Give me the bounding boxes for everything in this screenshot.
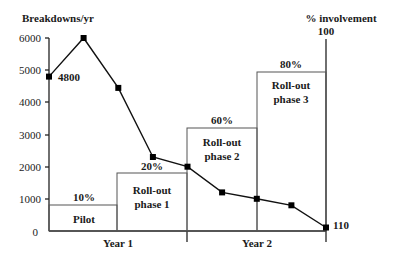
phase3-label-2: phase 3 — [273, 93, 309, 105]
data-point-marker — [150, 154, 156, 160]
y-tick-labels: 6000 5000 4000 3000 2000 1000 0 — [19, 32, 42, 238]
y-tick-4000: 4000 — [19, 96, 42, 108]
point-label-start: 4800 — [58, 71, 81, 83]
phase2-percent: 60% — [211, 114, 233, 126]
phase-labels: 10% Pilot 20% Roll-out phase 1 60% Roll-… — [73, 58, 311, 225]
phase2-label-1: Roll-out — [203, 136, 242, 148]
phase3-label-1: Roll-out — [272, 79, 311, 91]
y2-axis-title: % involvement — [305, 12, 377, 24]
data-point-marker — [115, 85, 121, 91]
y-axis-title: Breakdowns/yr — [22, 12, 94, 24]
x-label-year1: Year 1 — [103, 237, 133, 249]
data-point-marker — [323, 225, 329, 231]
y-tick-6000: 6000 — [19, 32, 42, 44]
phase2-label-2: phase 2 — [204, 150, 240, 162]
point-label-end: 110 — [333, 219, 349, 231]
data-point-marker — [288, 202, 294, 208]
y-tick-5000: 5000 — [19, 64, 42, 76]
y-axis — [45, 38, 49, 231]
data-point-marker — [185, 164, 191, 170]
phase1-label-2: phase 1 — [134, 198, 169, 210]
y-tick-3000: 3000 — [19, 129, 42, 141]
phase3-percent: 80% — [280, 58, 302, 70]
phase1-percent: 20% — [141, 160, 163, 172]
y-tick-2000: 2000 — [19, 161, 42, 173]
data-point-marker — [81, 35, 87, 41]
pilot-percent: 10% — [73, 191, 95, 203]
y2-tick-100: 100 — [318, 25, 335, 37]
pilot-label: Pilot — [73, 213, 95, 225]
data-point-marker — [46, 74, 52, 80]
x-axis — [49, 231, 326, 242]
x-label-year2: Year 2 — [242, 237, 273, 249]
data-point-marker — [254, 196, 260, 202]
y-tick-1000: 1000 — [19, 193, 42, 205]
x-labels: Year 1 Year 2 — [103, 237, 273, 249]
y-tick-0: 0 — [33, 226, 39, 238]
phase1-label-1: Roll-out — [133, 184, 172, 196]
data-point-marker — [219, 189, 225, 195]
breakdowns-chart: Breakdowns/yr % involvement 100 6000 500… — [0, 0, 401, 264]
